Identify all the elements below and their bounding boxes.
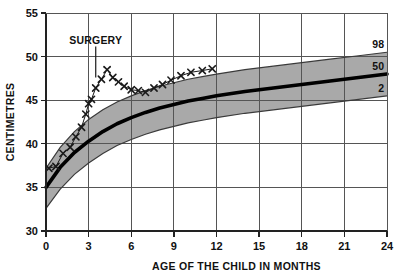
percentile-98-label: 98 [372, 38, 384, 50]
y-tick-label: 40 [26, 138, 38, 150]
y-tick-label: 45 [26, 94, 38, 106]
x-tick-label: 0 [43, 240, 49, 252]
x-axis-title: AGE OF THE CHILD IN MONTHS [152, 260, 321, 272]
x-tick-label: 21 [338, 240, 350, 252]
surgery-label: SURGERY [69, 34, 122, 46]
y-tick-label: 35 [26, 181, 38, 193]
x-tick-label: 6 [128, 240, 134, 252]
x-tick-label: 15 [253, 240, 265, 252]
x-tick-label: 12 [210, 240, 222, 252]
percentile-50-label: 50 [372, 60, 384, 72]
y-axis-title: CENTIMETRES [4, 83, 16, 162]
x-tick-label: 9 [171, 240, 177, 252]
growth-chart: 303540455055 03691215182124 98 50 2 SURG… [0, 0, 406, 275]
chart-background [0, 0, 406, 275]
y-tick-label: 50 [26, 51, 38, 63]
y-tick-label: 30 [26, 225, 38, 237]
y-tick-label: 55 [26, 7, 38, 19]
chart-canvas: 303540455055 03691215182124 98 50 2 SURG… [0, 0, 406, 275]
x-tick-label: 18 [296, 240, 308, 252]
x-tick-label: 24 [381, 240, 394, 252]
x-tick-label: 3 [86, 240, 92, 252]
percentile-2-label: 2 [378, 82, 384, 94]
